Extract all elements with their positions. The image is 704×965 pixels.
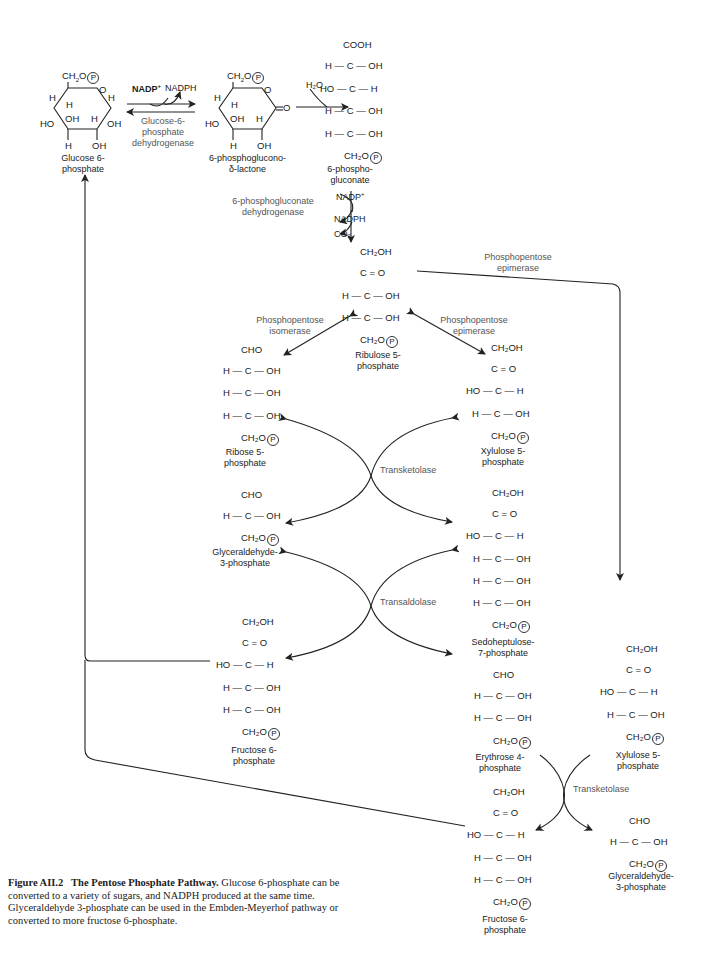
figure-title: The Pentose Phosphate Pathway.	[71, 877, 219, 888]
enzyme-transketolase-b: Transketolase	[573, 784, 629, 795]
enzyme-transketolase-a: Transketolase	[380, 465, 436, 476]
fructose-a-label: Fructose 6-phosphate	[224, 745, 284, 767]
enzyme-transaldolase: Transaldolase	[380, 597, 436, 608]
enzyme-epimerase-b: Phosphopentoseepimerase	[478, 252, 558, 274]
figure-caption: Figure AII.2 The Pentose Phosphate Pathw…	[8, 877, 368, 927]
nadph-cofactor: NADPH	[165, 83, 197, 93]
nadp-cofactor: NADP+	[132, 83, 161, 94]
lactone-ring	[219, 82, 283, 140]
enzyme-isomerase: Phosphopentoseisomerase	[250, 315, 330, 337]
phosphate-symbol: P	[87, 72, 99, 84]
sedoheptulose-label: Sedoheptulose-7-phosphate	[463, 637, 543, 659]
fructose-b-label: Fructose 6-phosphate	[475, 914, 535, 936]
enzyme-epimerase-a: Phosphopentoseepimerase	[434, 315, 514, 337]
lactone-label: 6-phosphoglucono-δ-lactone	[205, 153, 290, 175]
erythrose-label: Erythrose 4-phosphate	[470, 752, 530, 774]
nadph-cofactor-2: NADPH	[334, 214, 366, 224]
transketolase-b-curve-1	[536, 755, 564, 830]
g3p-b-label: Glyceraldehyde-3-phosphate	[601, 871, 681, 893]
gluconate-label: 6-phospho-gluconate	[320, 164, 380, 186]
ribulose-label: Ribulose 5-phosphate	[348, 350, 408, 372]
enzyme-6pgdh: 6-phosphogluconatedehydrogenase	[228, 196, 318, 218]
co2-cofactor: CO₂	[334, 229, 351, 239]
xylulose-b-label: Xylulose 5-phosphate	[608, 750, 668, 772]
return-line-fructose	[85, 175, 210, 661]
figure-number: Figure AII.2	[8, 877, 63, 888]
xylulose-a-label: Xylulose 5-phosphate	[473, 446, 533, 468]
g3p-a-label: Glyceraldehyde-3-phosphate	[205, 547, 285, 569]
ribose-label: Ribose 5-phosphate	[215, 447, 275, 469]
glucose-6-phosphate-label: Glucose 6-phosphate	[58, 153, 108, 175]
enzyme-g6pdh: Glucose-6-phosphatedehydrogenase	[130, 116, 196, 149]
nadp-cofactor-2: NADP+	[336, 191, 365, 202]
